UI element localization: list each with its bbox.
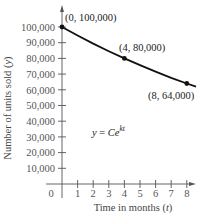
y-tick-label: 40,000 (26, 116, 55, 127)
x-axis: 0 1 2 3 4 5 6 7 8 (46, 180, 196, 199)
x-tick-label: 3 (106, 188, 111, 199)
point-label: (4, 80,000) (119, 42, 166, 54)
x-tick-label: 0 (48, 188, 53, 199)
y-tick-label: 80,000 (26, 53, 55, 64)
y-tick-label: 90,000 (26, 37, 55, 48)
x-axis-arrow-icon (189, 182, 196, 186)
point-label: (0, 100,000) (65, 12, 117, 24)
y-tick-label: 10,000 (26, 163, 55, 174)
y-tick-label: 50,000 (26, 100, 55, 111)
data-point (60, 25, 65, 30)
x-tick-label: 6 (153, 188, 158, 199)
data-point (184, 81, 189, 86)
x-tick-label: 4 (122, 188, 128, 199)
exponential-decay-chart: 10,000 20,000 30,000 40,000 50,000 60,00… (0, 0, 200, 219)
x-tick-label: 5 (137, 188, 142, 199)
point-label: (8, 64,000) (148, 90, 195, 102)
y-tick-label: 70,000 (26, 69, 55, 80)
decay-curve (62, 27, 196, 87)
y-tick-label: 60,000 (26, 85, 55, 96)
x-tick-label: 2 (91, 188, 96, 199)
y-axis-title: Number of units sold (y) (2, 56, 14, 160)
x-tick-label: 8 (184, 188, 189, 199)
equation-annotation: y = Cekt (91, 124, 126, 138)
y-axis-arrow-icon (60, 5, 64, 12)
data-point (122, 56, 127, 61)
x-axis-title: Time in months (t) (94, 202, 173, 214)
y-tick-label: 100,000 (21, 22, 55, 33)
y-tick-label: 30,000 (26, 132, 55, 143)
x-tick-label: 1 (75, 188, 80, 199)
x-tick-label: 7 (169, 188, 174, 199)
y-tick-label: 20,000 (26, 147, 55, 158)
y-axis: 10,000 20,000 30,000 40,000 50,000 60,00… (21, 5, 66, 198)
